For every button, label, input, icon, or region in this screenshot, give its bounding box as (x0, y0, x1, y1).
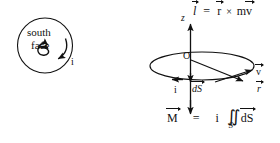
r-vector-symbol: r (217, 5, 221, 17)
physics-figure: south face i z l = r × mv O i dS v r M =… (0, 0, 280, 143)
current-symbol-equation: i (215, 111, 218, 125)
dS-vector-symbol: dS (192, 84, 202, 94)
current-label-left: i (71, 57, 74, 67)
v-label-vector-symbol: v (256, 67, 261, 77)
v-vector-symbol: v (246, 5, 252, 17)
dS-vector-symbol-equation: dS (241, 112, 254, 124)
equals-sign-2: = (181, 111, 213, 125)
axis-label-z: z (181, 14, 185, 24)
radius-vector-r (191, 60, 243, 81)
magnetic-moment-equation: M = i ∬ S dS (167, 108, 253, 125)
double-integral-group: ∬ S (227, 108, 240, 125)
south-face-label-line1: south (27, 27, 51, 38)
r-label-vector-symbol: r (257, 84, 261, 94)
cross-product-sign: × (224, 6, 234, 17)
mass-symbol: m (237, 4, 246, 18)
l-vector-symbol: l (193, 5, 196, 17)
angular-momentum-equation: l = r × mv (193, 5, 252, 17)
current-label-right: i (174, 85, 177, 95)
current-direction-arrow-left (58, 39, 66, 59)
radius-label: r (257, 84, 261, 94)
origin-label-O: O (183, 51, 190, 61)
equals-sign-1: = (199, 4, 214, 18)
south-face-label-line2: face (31, 40, 49, 51)
area-element-label: dS (192, 84, 202, 94)
surface-subscript: S (229, 121, 233, 130)
M-vector-symbol: M (167, 112, 178, 124)
current-loop-ellipse (150, 52, 254, 80)
velocity-label: v (256, 67, 261, 77)
